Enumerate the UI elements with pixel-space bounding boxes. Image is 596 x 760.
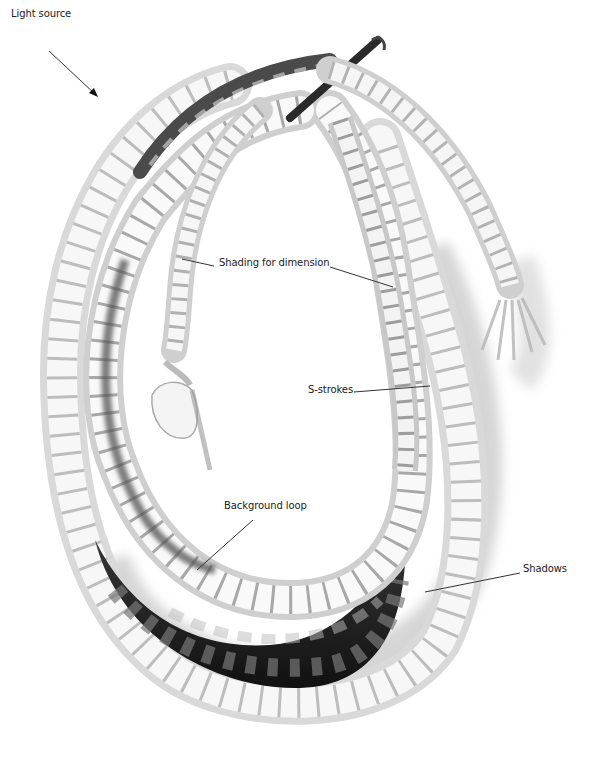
rope-illustration: Light source Shading for dimension S-str… bbox=[0, 0, 596, 760]
label-s-strokes: S-strokes bbox=[308, 384, 353, 395]
label-shading-for-dimension: Shading for dimension bbox=[219, 257, 329, 268]
background-loop-leader bbox=[197, 520, 253, 570]
light-source-arrow bbox=[49, 51, 96, 95]
label-light-source: Light source bbox=[11, 8, 71, 19]
label-background-loop: Background loop bbox=[224, 500, 307, 511]
label-shadows: Shadows bbox=[523, 563, 567, 574]
rope-drawing bbox=[0, 0, 596, 760]
